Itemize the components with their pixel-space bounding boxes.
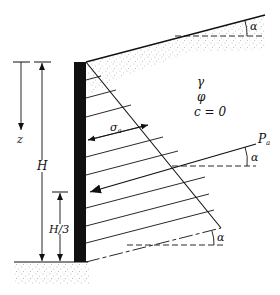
earth-pressure-diagram: α σa α Pa α xyxy=(0,0,280,295)
depth-dimension: z xyxy=(13,62,30,146)
resultant-height-dimension: H/3 xyxy=(48,192,69,261)
base-ground xyxy=(14,262,89,284)
cohesion-label: c = 0 xyxy=(194,105,226,119)
retaining-wall xyxy=(74,62,86,262)
pa-label: Pa xyxy=(257,132,270,147)
diagram-svg: α σa α Pa α xyxy=(0,0,280,295)
phi-label: φ xyxy=(197,90,206,104)
gamma-label: γ xyxy=(197,75,205,89)
resultant-arrow xyxy=(90,144,256,192)
base-angle-indicator: α xyxy=(127,231,226,245)
h-third-label: H/3 xyxy=(48,223,69,236)
sigma-a-label: σa xyxy=(110,121,122,135)
h-label: H xyxy=(36,159,48,173)
backfill-soil xyxy=(86,15,265,95)
resultant-force: α Pa xyxy=(90,132,270,192)
active-pressure-dimension: σa xyxy=(88,121,148,140)
base-alpha-label: α xyxy=(217,231,225,244)
soil-properties: γ φ c = 0 xyxy=(194,75,226,119)
resultant-alpha-label: α xyxy=(251,151,259,164)
backfill-alpha-label: α xyxy=(250,20,258,33)
z-label: z xyxy=(16,133,23,146)
